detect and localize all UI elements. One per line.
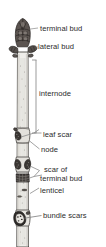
label-lateral-bud: lateral bud — [38, 42, 74, 51]
leader-lenticel — [30, 188, 39, 194]
label-leaf-scar: leaf scar — [43, 130, 72, 139]
label-lenticel: lenticel — [40, 186, 64, 195]
leader-terminal-bud — [30, 28, 38, 29]
node-ring — [15, 157, 31, 172]
internode-bracket-line — [32, 60, 37, 133]
label-terminal-bud: terminal bud — [40, 24, 82, 33]
twig-illustration — [0, 0, 106, 247]
leader-node — [30, 141, 40, 149]
label-bundle-scars: bundle scars — [43, 211, 87, 220]
leaf-scar-shape — [14, 128, 30, 143]
terminal-bud-shape — [15, 19, 30, 47]
label-node: node — [41, 145, 58, 154]
label-internode: internode — [39, 89, 71, 98]
label-terminal-bud-second-line: terminal bud — [40, 174, 82, 183]
twig-diagram-figure: terminal bud lateral bud internode leaf … — [0, 0, 106, 247]
terminal-bud-scar-ring — [16, 174, 29, 182]
label-scar-of: scar of — [44, 165, 67, 174]
